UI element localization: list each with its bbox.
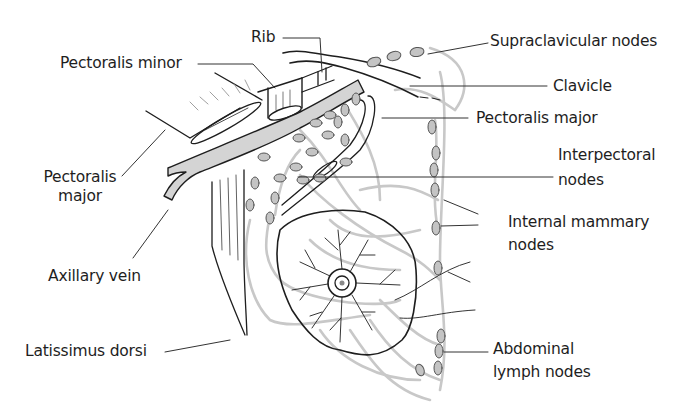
label-rib: Rib (251, 28, 275, 47)
label-internal-mammary-nodes: Internal mammary nodes (508, 213, 649, 255)
label-line-1: Internal mammary (508, 213, 649, 232)
label-pectoralis-major-right: Pectoralis major (476, 109, 597, 128)
label-clavicle: Clavicle (553, 77, 612, 96)
label-axillary-vein: Axillary vein (48, 267, 141, 286)
label-line-2: nodes (558, 171, 655, 190)
axillary-vein (164, 80, 364, 200)
latissimus-dorsi-muscle (212, 170, 247, 335)
label-interpectoral-nodes: Interpectoral nodes (558, 146, 655, 190)
label-line-2: lymph nodes (493, 363, 591, 382)
label-line-1: Abdominal (493, 340, 591, 359)
label-pectoralis-major-left: Pectoralis major (30, 168, 130, 206)
label-line-2: nodes (508, 236, 649, 255)
leader-lines (122, 38, 553, 352)
label-supraclavicular-nodes: Supraclavicular nodes (490, 32, 657, 51)
label-latissimus-dorsi: Latissimus dorsi (25, 342, 147, 361)
label-abdominal-lymph-nodes: Abdominal lymph nodes (493, 340, 591, 382)
label-line-1: Interpectoral (558, 146, 655, 165)
label-pectoralis-minor: Pectoralis minor (60, 54, 182, 73)
label-line-1: Pectoralis (30, 168, 130, 187)
label-line-2: major (30, 187, 130, 206)
rib-structure (302, 66, 334, 92)
